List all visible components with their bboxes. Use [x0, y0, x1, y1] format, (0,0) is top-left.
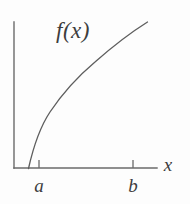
function-label: f(x): [56, 19, 90, 42]
plot-canvas: [0, 0, 190, 204]
function-plot-figure: f(x) a b x: [0, 0, 190, 204]
x-axis-label: x: [164, 155, 172, 174]
tick-label-b: b: [128, 176, 138, 195]
function-curve: [29, 22, 148, 169]
tick-label-a: a: [34, 176, 44, 195]
